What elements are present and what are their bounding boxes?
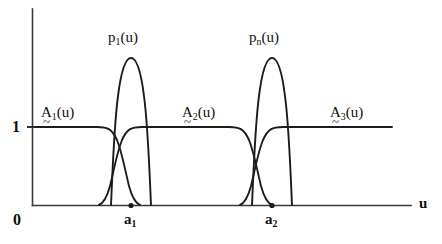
membership-label-a1-arg: (u)	[57, 104, 75, 120]
x-axis-tick-dot-a1	[128, 203, 133, 208]
membership-label-a3-undertilde: ~	[332, 115, 339, 128]
membership-label-a2-arg: (u)	[198, 104, 216, 120]
peak-label-pn-arg: (u)	[261, 29, 279, 45]
peak-label-p1: p1(u)	[108, 30, 138, 47]
membership-label-a1-undertilde: ~	[43, 115, 50, 128]
peak-label-p1-arg: (u)	[120, 29, 138, 45]
x-axis-label-a2: a2	[265, 212, 277, 229]
origin-label-zero: 0	[13, 212, 21, 228]
x-axis-label-a2-subscript: 2	[273, 218, 278, 229]
x-axis-name-label: u	[419, 196, 427, 211]
x-axis-label-a1: a1	[124, 212, 136, 229]
peak-label-pn: pn(u)	[249, 30, 279, 47]
curve-membership-a1	[36, 127, 140, 205]
curve-peak-pn	[252, 58, 292, 205]
y-axis-label-one: 1	[12, 119, 20, 135]
curve-peak-p1	[111, 58, 151, 205]
x-axis-label-a2-base: a	[265, 211, 273, 227]
peak-label-pn-base: p	[249, 29, 257, 45]
x-axis-label-a1-base: a	[124, 211, 132, 227]
figure-container: p1(u) pn(u) A1(u) ~ A2(u) ~ A3(u) ~ 1 0 …	[0, 0, 442, 244]
membership-label-a3-arg: (u)	[346, 104, 364, 120]
peak-label-p1-base: p	[108, 29, 116, 45]
x-axis-label-a1-subscript: 1	[132, 218, 137, 229]
membership-label-a2-undertilde: ~	[184, 115, 191, 128]
